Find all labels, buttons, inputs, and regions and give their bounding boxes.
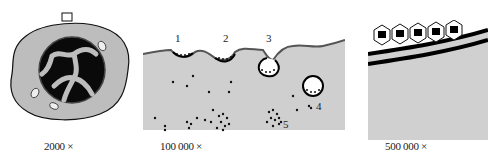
coated-vesicle-free: [303, 76, 323, 96]
callout-3: 3: [266, 32, 272, 44]
callout-2: 2: [223, 32, 229, 44]
coated-vesicle-budding: [259, 58, 279, 76]
callout-4: 4: [316, 100, 322, 112]
magnification-label-2000x: 2000 ×: [44, 140, 73, 152]
magnification-label-500000x: 500 000 ×: [385, 140, 427, 152]
clathrin-lattice-illustration: [368, 20, 488, 140]
panel-membrane-100000x: 1 2 3 4 5: [143, 30, 345, 140]
cell-illustration: [4, 8, 136, 126]
panel-lattice-500000x: [368, 20, 488, 140]
boxed-region-marker: [62, 13, 72, 21]
endocytosis-illustration: [143, 30, 345, 140]
magnification-label-100000x: 100 000 ×: [160, 140, 202, 152]
callout-1: 1: [175, 32, 181, 44]
panel-cell-2000x: [4, 8, 136, 126]
callout-5: 5: [283, 118, 289, 130]
